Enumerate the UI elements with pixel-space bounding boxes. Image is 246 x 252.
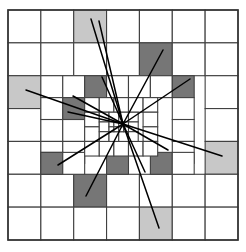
mesh-grid-diagram	[0, 0, 246, 252]
mesh-cell	[139, 10, 172, 43]
mesh-cell	[143, 112, 158, 127]
mesh-cell	[41, 76, 63, 98]
mesh-cell	[85, 127, 100, 142]
mesh-cell	[172, 120, 194, 142]
mesh-cell	[114, 141, 129, 156]
mesh-cell	[150, 76, 172, 98]
mesh-cell	[8, 207, 41, 240]
mesh-cell	[74, 207, 107, 240]
mesh-cell	[107, 10, 140, 43]
mesh-cell	[172, 43, 205, 76]
mesh-cell	[99, 141, 114, 156]
mesh-cell	[205, 76, 238, 109]
mesh-cell	[8, 43, 41, 76]
diagram-root	[0, 0, 246, 252]
mesh-cell	[8, 109, 41, 142]
mesh-cell	[74, 10, 107, 43]
mesh-cell	[41, 10, 74, 43]
mesh-cell	[99, 122, 109, 132]
mesh-cell	[63, 76, 85, 98]
mesh-cell	[107, 174, 140, 207]
mesh-cell	[205, 109, 238, 142]
mesh-cell	[41, 207, 74, 240]
mesh-cell	[74, 174, 107, 207]
mesh-cell	[172, 152, 194, 174]
mesh-cell	[172, 98, 194, 120]
mesh-cell	[41, 120, 63, 142]
mesh-cell	[172, 207, 205, 240]
mesh-cell	[107, 207, 140, 240]
mesh-cell	[74, 43, 107, 76]
mesh-cell	[172, 76, 194, 98]
mesh-cell	[41, 43, 74, 76]
mesh-cell	[8, 141, 41, 174]
mesh-cell	[128, 141, 143, 156]
mesh-cell	[205, 10, 238, 43]
mesh-cell	[107, 43, 140, 76]
mesh-cell	[8, 10, 41, 43]
mesh-cell	[139, 207, 172, 240]
mesh-cell	[41, 98, 63, 120]
mesh-cell	[139, 43, 172, 76]
mesh-cell	[205, 174, 238, 207]
mesh-cell	[8, 76, 41, 109]
mesh-cell	[205, 141, 238, 174]
mesh-cell	[63, 120, 85, 142]
mesh-cell	[41, 174, 74, 207]
mesh-cell	[8, 174, 41, 207]
mesh-cell	[172, 174, 205, 207]
mesh-cell	[172, 10, 205, 43]
mesh-cell	[109, 122, 114, 127]
mesh-cell	[205, 43, 238, 76]
mesh-cell	[139, 174, 172, 207]
mesh-cell	[205, 207, 238, 240]
